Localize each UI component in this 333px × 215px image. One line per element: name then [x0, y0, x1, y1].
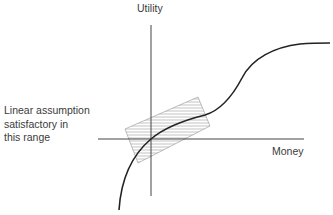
linear-range-annotation: Linear assumption satisfactory in this r…: [4, 104, 90, 145]
y-axis-label: Utility: [137, 2, 163, 15]
x-axis-label: Money: [272, 145, 304, 158]
annotation-line: Linear assumption: [4, 104, 90, 118]
annotation-line: this range: [4, 131, 90, 145]
annotation-line: satisfactory in: [4, 118, 90, 132]
linear-range-hatch: [120, 97, 215, 163]
